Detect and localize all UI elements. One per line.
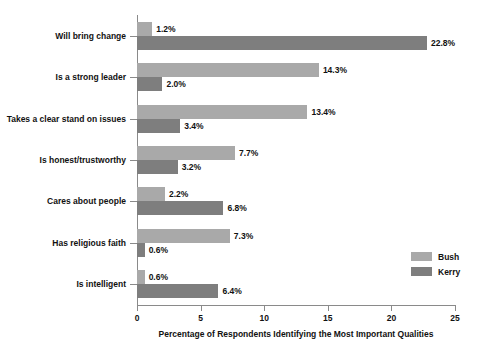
legend-label: Kerry xyxy=(438,267,460,277)
x-tick-label: 5 xyxy=(198,313,203,323)
bar-kerry xyxy=(137,243,145,257)
category-tick xyxy=(130,160,137,161)
category-label: Is honest/trustworthy xyxy=(0,155,126,165)
bar-row: 13.4% xyxy=(137,105,455,119)
legend-label: Bush xyxy=(438,252,459,262)
bar-bush xyxy=(137,146,235,160)
bar-bush xyxy=(137,187,165,201)
legend: BushKerry xyxy=(411,250,460,280)
bar-row: 6.8% xyxy=(137,201,455,215)
bar-row: 3.4% xyxy=(137,119,455,133)
category-tick xyxy=(130,284,137,285)
bar-value-label: 0.6% xyxy=(145,270,168,284)
x-tick-label: 10 xyxy=(259,313,268,323)
bar-kerry xyxy=(137,284,218,298)
x-axis-line xyxy=(137,305,455,306)
bar-value-label: 6.8% xyxy=(223,201,246,215)
x-axis-title: Percentage of Respondents Identifying th… xyxy=(137,329,455,339)
legend-swatch-kerry xyxy=(411,267,432,276)
bar-value-label: 2.0% xyxy=(162,77,185,91)
bar-kerry xyxy=(137,201,223,215)
bar-bush xyxy=(137,229,230,243)
bar-value-label: 2.2% xyxy=(165,187,188,201)
bar-kerry xyxy=(137,36,427,50)
bar-row: 6.4% xyxy=(137,284,455,298)
bar-row: 3.2% xyxy=(137,160,455,174)
x-tick-label: 20 xyxy=(387,313,396,323)
bar-row: 1.2% xyxy=(137,22,455,36)
category-tick xyxy=(130,36,137,37)
category-tick xyxy=(130,201,137,202)
bar-value-label: 14.3% xyxy=(319,63,347,77)
bar-value-label: 0.6% xyxy=(145,243,168,257)
bar-row: 14.3% xyxy=(137,63,455,77)
bar-row: 2.2% xyxy=(137,187,455,201)
bar-bush xyxy=(137,63,319,77)
x-tick-mark xyxy=(391,305,392,311)
category-tick xyxy=(130,243,137,244)
bar-value-label: 3.4% xyxy=(180,119,203,133)
category-label: Is a strong leader xyxy=(0,72,126,82)
bar-row: 7.7% xyxy=(137,146,455,160)
legend-swatch-bush xyxy=(411,252,432,261)
bar-value-label: 3.2% xyxy=(178,160,201,174)
x-tick-mark xyxy=(328,305,329,311)
bar-value-label: 6.4% xyxy=(218,284,241,298)
x-tick-label: 0 xyxy=(135,313,140,323)
x-tick-mark xyxy=(201,305,202,311)
category-tick xyxy=(130,77,137,78)
bar-kerry xyxy=(137,119,180,133)
bar-row: 2.0% xyxy=(137,77,455,91)
bar-bush xyxy=(137,105,307,119)
bar-kerry xyxy=(137,77,162,91)
bar-bush xyxy=(137,22,152,36)
category-label: Takes a clear stand on issues xyxy=(0,114,126,124)
category-tick xyxy=(130,119,137,120)
x-tick-mark xyxy=(264,305,265,311)
bar-value-label: 22.8% xyxy=(427,36,455,50)
legend-item: Bush xyxy=(411,250,460,263)
legend-item: Kerry xyxy=(411,265,460,278)
x-tick-label: 15 xyxy=(323,313,332,323)
bar-chart: 1.2%22.8%Will bring change14.3%2.0%Is a … xyxy=(0,0,481,355)
bar-bush xyxy=(137,270,145,284)
bar-row: 7.3% xyxy=(137,229,455,243)
bar-value-label: 13.4% xyxy=(307,105,335,119)
x-tick-mark xyxy=(455,305,456,311)
x-tick-mark xyxy=(137,305,138,311)
category-label: Has religious faith xyxy=(0,238,126,248)
bar-value-label: 1.2% xyxy=(152,22,175,36)
bar-kerry xyxy=(137,160,178,174)
bar-value-label: 7.7% xyxy=(235,146,258,160)
bar-row: 22.8% xyxy=(137,36,455,50)
category-label: Is intelligent xyxy=(0,279,126,289)
bar-value-label: 7.3% xyxy=(230,229,253,243)
bar-row: 0.6% xyxy=(137,270,455,284)
category-label: Will bring change xyxy=(0,31,126,41)
category-label: Cares about people xyxy=(0,196,126,206)
x-tick-label: 25 xyxy=(450,313,459,323)
bar-row: 0.6% xyxy=(137,243,455,257)
